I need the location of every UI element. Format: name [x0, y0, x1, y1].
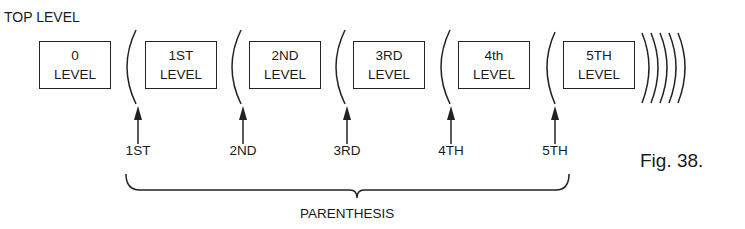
arrow-head-icon: [239, 106, 247, 120]
close-paren-icon: [669, 33, 676, 103]
diagram-lines: [0, 0, 745, 229]
open-paren-icon: [127, 30, 136, 104]
open-paren-icon: [441, 30, 450, 104]
arrow-head-icon: [343, 106, 351, 120]
marker-label-5: 5TH: [542, 143, 568, 158]
open-paren-icon: [232, 30, 241, 104]
marker-label-2: 2ND: [229, 143, 256, 158]
close-paren-icon: [651, 33, 658, 103]
brace-label: PARENTHESIS: [300, 206, 394, 221]
arrow-head-icon: [447, 106, 455, 120]
marker-label-4: 4TH: [438, 143, 464, 158]
figure-caption: Fig. 38.: [640, 150, 703, 172]
arrow-head-icon: [134, 106, 142, 120]
close-paren-icon: [660, 33, 667, 103]
marker-label-3: 3RD: [333, 143, 360, 158]
open-paren-icon: [547, 32, 555, 104]
brace-icon: [126, 174, 569, 198]
open-paren-icon: [336, 30, 345, 104]
arrow-head-icon: [551, 106, 559, 120]
marker-label-1: 1ST: [126, 143, 151, 158]
close-paren-icon: [642, 33, 649, 103]
close-paren-icon: [678, 33, 685, 103]
